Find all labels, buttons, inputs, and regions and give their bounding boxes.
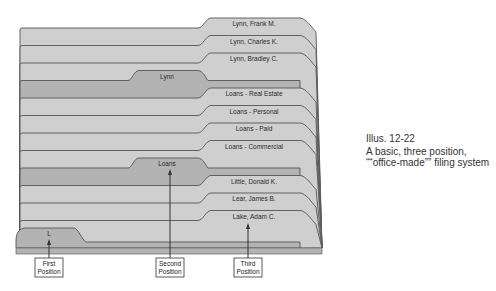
tab-label: Lake, Adam C. bbox=[233, 213, 276, 220]
position-label-line2: Position bbox=[37, 268, 61, 275]
position-label-line2: Position bbox=[158, 268, 182, 275]
tab-label: Loans - Real Estate bbox=[225, 90, 282, 97]
tab-label: Little, Donald K. bbox=[231, 178, 277, 185]
tab-label: Lynn, Charles K. bbox=[230, 38, 278, 46]
tab-label: Lear, James B. bbox=[232, 195, 276, 202]
tab-label: Lynn, Frank M. bbox=[232, 20, 275, 28]
tab-label: Loans - Paid bbox=[236, 125, 273, 132]
illustration-number: Illus. 12-22 bbox=[366, 133, 415, 144]
tab-label: Loans - Personal bbox=[229, 108, 279, 115]
drawer-base bbox=[16, 248, 322, 254]
tab-label: Loans - Commercial bbox=[225, 143, 284, 150]
tab-label: Lynn bbox=[160, 73, 174, 81]
position-label-line1: First bbox=[43, 260, 56, 267]
position-label-line1: Third bbox=[241, 260, 256, 267]
tab-label: Lynn, Bradley C. bbox=[230, 55, 278, 63]
position-label-line1: Second bbox=[159, 260, 181, 267]
position-label-line2: Position bbox=[236, 268, 260, 275]
illustration-caption: A basic, three position, ““office-made””… bbox=[366, 146, 496, 168]
folder-stack: Lynn, Frank M.Lynn, Charles K.Lynn, Brad… bbox=[16, 18, 322, 254]
tab-label: Loans bbox=[158, 160, 176, 167]
tab-label: L bbox=[47, 230, 51, 237]
